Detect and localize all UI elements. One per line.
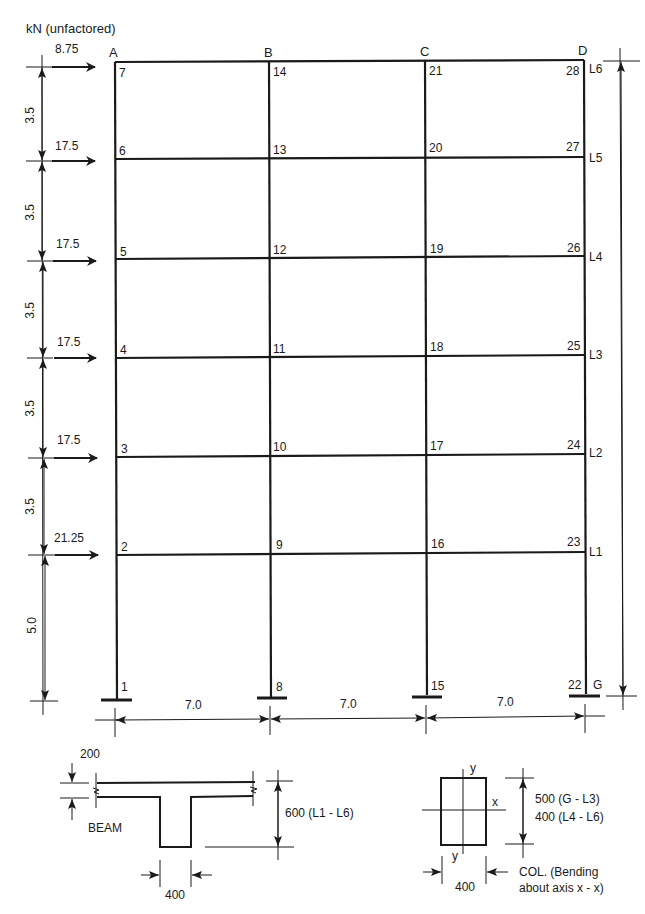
column-label-D: D (578, 44, 587, 57)
node-9: 9 (276, 539, 283, 552)
column-D (584, 60, 586, 694)
load-value-L3: 17.5 (57, 336, 80, 349)
level-label-L3: L3 (589, 349, 602, 362)
node-1: 1 (121, 681, 128, 694)
storey-height-L5-L6: 3.5 (24, 107, 37, 124)
bay-width-BC: 7.0 (340, 698, 357, 711)
storey-height-L2-L3: 3.5 (24, 400, 37, 417)
column-axis-y-top: y (470, 762, 476, 775)
beam-web-width: 400 (165, 889, 185, 902)
beam-L5 (115, 157, 584, 159)
load-value-L4: 17.5 (56, 238, 79, 251)
node-26: 26 (567, 242, 580, 255)
bay-width-AB: 7.0 (185, 699, 202, 712)
level-label-G: G (593, 679, 602, 692)
level-label-L2: L2 (589, 447, 602, 460)
column-section-drawing (422, 768, 534, 884)
node-11: 11 (273, 343, 285, 356)
frame-diagram (0, 0, 645, 914)
beam-L4 (115, 256, 584, 259)
node-5: 5 (120, 246, 127, 259)
level-label-L1: L1 (589, 546, 602, 559)
beam-L6 (115, 60, 584, 62)
storey-height-G-L1: 5.0 (26, 617, 39, 634)
load-value-L5: 17.5 (55, 140, 78, 153)
unit-label: kN (unfactored) (26, 22, 116, 35)
load-value-L1: 21.25 (54, 532, 84, 545)
node-28: 28 (566, 65, 579, 78)
load-value-L6: 8.75 (55, 43, 78, 56)
storey-height-L1-L2: 3.5 (24, 498, 37, 515)
column-axis-x: x (492, 796, 498, 809)
level-label-L4: L4 (589, 251, 602, 264)
node-19: 19 (430, 243, 443, 256)
node-16: 16 (431, 538, 444, 551)
node-6: 6 (119, 145, 126, 158)
column-caption-line2: about axis x - x) (519, 882, 604, 895)
node-3: 3 (121, 443, 128, 456)
node-7: 7 (119, 67, 126, 80)
node-22: 22 (568, 679, 581, 692)
column-label-B: B (264, 46, 273, 59)
load-value-L2: 17.5 (57, 434, 80, 447)
beam-flange-thickness: 200 (80, 748, 100, 761)
node-13: 13 (273, 144, 286, 157)
frame-columns (115, 60, 586, 699)
level-label-L6: L6 (589, 63, 602, 76)
column-depth-G-L3: 500 (G - L3) (535, 793, 600, 806)
column-C (425, 61, 427, 695)
node-21: 21 (429, 65, 442, 78)
node-12: 12 (273, 244, 286, 257)
column-depth-L4-L6: 400 (L4 - L6) (535, 811, 604, 824)
column-width: 400 (455, 881, 475, 894)
node-10: 10 (273, 441, 286, 454)
column-label-C: C (420, 45, 429, 58)
node-20: 20 (429, 142, 442, 155)
node-17: 17 (430, 440, 443, 453)
column-label-A: A (109, 46, 118, 59)
node-15: 15 (431, 680, 444, 693)
node-24: 24 (567, 439, 580, 452)
node-14: 14 (273, 66, 286, 79)
storey-height-L3-L4: 3.5 (24, 302, 37, 319)
column-A (115, 62, 117, 699)
node-27: 27 (566, 141, 579, 154)
beam-L3 (115, 355, 585, 358)
level-label-L5: L5 (589, 152, 602, 165)
column-axis-y-bottom: y (452, 850, 458, 863)
bay-width-CD: 7.0 (497, 696, 514, 709)
node-2: 2 (121, 541, 128, 554)
column-caption-line1: COL. (Bending (519, 866, 598, 879)
node-8: 8 (276, 681, 283, 694)
beam-depth: 600 (L1 - L6) (285, 807, 354, 820)
beam-L1 (116, 552, 585, 555)
overall-height-dimension (603, 48, 640, 710)
beam-label: BEAM (88, 822, 122, 835)
storey-height-L4-L5: 3.5 (24, 204, 37, 221)
node-23: 23 (567, 536, 580, 549)
node-25: 25 (567, 340, 580, 353)
node-4: 4 (120, 344, 127, 357)
node-18: 18 (430, 341, 443, 354)
frame-beams (115, 60, 585, 555)
beam-L2 (116, 454, 585, 457)
